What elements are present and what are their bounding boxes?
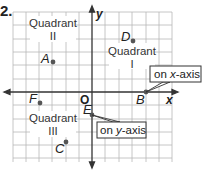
y-axis-down-arrow-icon xyxy=(90,162,95,168)
x-axis-right-arrow-icon xyxy=(172,90,178,95)
point-marker-icon xyxy=(131,39,136,44)
point-F: F xyxy=(29,91,42,106)
x-axis-left-arrow-icon xyxy=(4,90,10,95)
coordinate-plane: y x O Quadrant II Quadrant I Quadrant II… xyxy=(0,0,208,176)
svg-text:Quadrant: Quadrant xyxy=(108,45,157,57)
svg-text:II: II xyxy=(50,30,56,42)
svg-text:B: B xyxy=(136,92,145,107)
svg-text:D: D xyxy=(121,29,130,44)
quadrant-label-I: Quadrant I xyxy=(108,43,157,70)
svg-text:A: A xyxy=(40,51,50,66)
point-D: D xyxy=(121,29,135,44)
quadrant-label-III: Quadrant III xyxy=(29,111,78,137)
quadrant-label-II: Quadrant II xyxy=(29,16,78,42)
point-marker-icon xyxy=(38,101,43,106)
x-axis-label: x xyxy=(165,93,174,107)
svg-text:on y-axis: on y-axis xyxy=(100,124,146,136)
y-axis-label: y xyxy=(95,7,104,21)
point-marker-icon xyxy=(51,60,56,65)
y-axis-up-arrow-icon xyxy=(90,6,95,12)
svg-text:Quadrant: Quadrant xyxy=(29,112,78,124)
svg-text:I: I xyxy=(130,58,133,70)
svg-text:III: III xyxy=(48,125,58,137)
svg-text:on x-axis: on x-axis xyxy=(154,68,200,80)
point-A: A xyxy=(40,51,55,66)
svg-text:F: F xyxy=(29,91,38,106)
callout-on-x-axis: on x-axis xyxy=(146,66,201,92)
svg-text:C: C xyxy=(55,141,65,156)
svg-text:E: E xyxy=(83,102,92,117)
svg-text:Quadrant: Quadrant xyxy=(29,17,78,29)
